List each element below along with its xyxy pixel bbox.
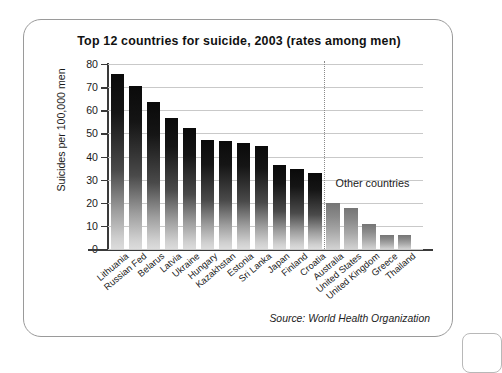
figure-card: Top 12 countries for suicide, 2003 (rate…: [23, 19, 453, 337]
gridline: [108, 64, 423, 65]
bar: [165, 118, 178, 249]
y-tick-label: 70: [72, 81, 98, 93]
bar: [201, 140, 214, 249]
bar: [111, 74, 124, 249]
adjacent-card-fragment: [462, 333, 502, 373]
y-tick-label: 50: [72, 127, 98, 139]
bar: [183, 128, 196, 249]
y-tick-label: 10: [72, 220, 98, 232]
y-axis-title: Suicides per 100,000 men: [55, 35, 67, 225]
y-tick-label: 40: [72, 151, 98, 163]
bar: [344, 208, 357, 249]
group-divider-line: [324, 61, 325, 249]
bar: [273, 165, 286, 249]
y-axis-tick-labels: 01020304050607080: [68, 64, 98, 249]
gridline: [108, 249, 423, 250]
bar: [147, 102, 160, 249]
bar: [290, 169, 303, 249]
y-tick-label: 60: [72, 104, 98, 116]
y-tick-label: 20: [72, 197, 98, 209]
bar: [398, 235, 411, 249]
bar: [255, 146, 268, 249]
bar: [219, 141, 232, 249]
bar: [380, 235, 393, 249]
y-tick-label: 80: [72, 58, 98, 70]
source-note: Source: World Health Organization: [269, 313, 430, 324]
bar: [326, 203, 339, 249]
other-countries-annotation: Other countries: [336, 177, 410, 189]
plot-area: Other countries: [108, 64, 423, 249]
bar: [237, 143, 250, 249]
bar: [308, 173, 321, 249]
bar: [129, 86, 142, 249]
gridline: [108, 87, 423, 88]
y-tick-label: 30: [72, 174, 98, 186]
chart-title: Top 12 countries for suicide, 2003 (rate…: [24, 34, 454, 48]
bar: [362, 224, 375, 249]
